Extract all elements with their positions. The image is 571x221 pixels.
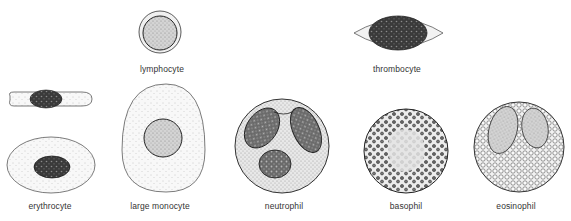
erythrocyte-side-drawing xyxy=(10,90,93,108)
blood-cell-illustration xyxy=(0,0,571,221)
basophil-drawing xyxy=(364,109,448,193)
neutrophil-drawing xyxy=(235,99,329,193)
label-lymphocyte: lymphocyte xyxy=(140,64,184,74)
eosinophil-drawing xyxy=(474,102,564,192)
label-basophil: basophil xyxy=(390,201,422,211)
label-erythrocyte: erythrocyte xyxy=(28,201,71,211)
label-thrombocyte: thrombocyte xyxy=(373,64,421,74)
large-monocyte-drawing xyxy=(122,84,205,192)
label-eosinophil: eosinophil xyxy=(496,201,535,211)
erythrocyte-top-drawing xyxy=(7,137,95,193)
label-large-monocyte: large monocyte xyxy=(130,201,190,211)
label-neutrophil: neutrophil xyxy=(265,201,303,211)
lymphocyte-drawing xyxy=(139,11,181,53)
thrombocyte-drawing xyxy=(354,16,443,50)
